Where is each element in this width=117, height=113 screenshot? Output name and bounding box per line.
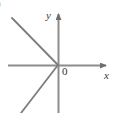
- upper-ray-line: [12, 18, 58, 65]
- graph-figure: ) y x 0: [0, 0, 117, 113]
- origin-label: 0: [62, 66, 68, 77]
- lower-ray-line: [21, 65, 58, 113]
- y-axis-label: y: [46, 10, 51, 21]
- coordinate-plot-svg: [0, 0, 117, 113]
- x-axis-label: x: [104, 70, 109, 81]
